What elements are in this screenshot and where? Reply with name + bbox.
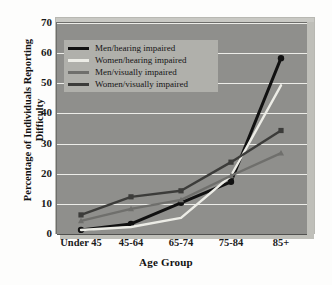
legend-swatch bbox=[68, 47, 89, 50]
series-line bbox=[81, 153, 281, 221]
y-axis-title-line-2: Difficulty bbox=[34, 20, 46, 220]
x-axis-tick-labels: Under 4545-6465-7475-8485+ bbox=[56, 237, 306, 253]
x-axis-tick-label: 85+ bbox=[273, 237, 289, 248]
legend-label: Men/hearing impaired bbox=[95, 44, 175, 53]
legend-item: Men/hearing impaired bbox=[68, 43, 214, 54]
legend-label: Men/visually impaired bbox=[95, 68, 177, 77]
series-line bbox=[81, 85, 281, 230]
plot-panel-right-bevel bbox=[306, 22, 314, 237]
y-axis-title: Percentage of Individuals Reporting Diff… bbox=[22, 20, 46, 220]
legend-item: Men/visually impaired bbox=[68, 67, 214, 78]
y-axis-title-line-1: Percentage of Individuals Reporting bbox=[22, 20, 34, 220]
series-marker bbox=[228, 179, 234, 185]
x-axis-tick-label: 45-64 bbox=[119, 237, 144, 248]
x-axis-tick-label: 75-84 bbox=[219, 237, 244, 248]
x-axis-tick-label: 65-74 bbox=[169, 237, 194, 248]
gridline bbox=[57, 234, 307, 235]
chart-legend: Men/hearing impairedWomen/hearing impair… bbox=[64, 40, 218, 92]
legend-label: Women/visually impaired bbox=[95, 80, 188, 89]
legend-swatch bbox=[68, 83, 89, 86]
legend-swatch bbox=[68, 71, 89, 74]
legend-label: Women/hearing impaired bbox=[95, 56, 187, 65]
y-axis-tick-label: 0 bbox=[26, 228, 52, 238]
x-axis-tick-label: Under 45 bbox=[60, 237, 102, 248]
legend-swatch bbox=[68, 59, 89, 62]
series-marker bbox=[78, 212, 83, 217]
series-marker bbox=[128, 194, 133, 199]
legend-item: Women/visually impaired bbox=[68, 79, 214, 90]
x-axis-title: Age Group bbox=[0, 256, 332, 268]
series-marker bbox=[278, 150, 284, 156]
series-marker bbox=[278, 128, 283, 133]
legend-item: Women/hearing impaired bbox=[68, 55, 214, 66]
chart-figure: 010203040506070 Under 4545-6465-7475-848… bbox=[0, 0, 332, 285]
series-marker bbox=[228, 160, 233, 165]
series-marker bbox=[278, 55, 284, 61]
series-marker bbox=[178, 188, 183, 193]
